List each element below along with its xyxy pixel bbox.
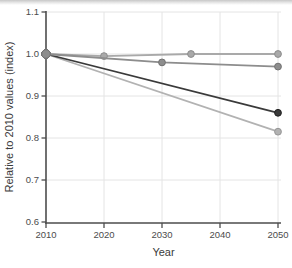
- data-point-marker: [275, 51, 282, 58]
- y-tick-label: 0.6: [26, 216, 39, 227]
- y-tick-label: 1.0: [26, 48, 39, 59]
- x-tick-label: 2040: [209, 229, 230, 240]
- x-tick-label: 2050: [267, 229, 288, 240]
- data-point-marker: [275, 109, 282, 116]
- data-point-marker: [188, 51, 195, 58]
- axes: 0.60.70.80.91.01.120102020203020402050: [26, 6, 289, 240]
- y-tick-label: 0.9: [26, 90, 39, 101]
- x-tick-label: 2030: [151, 229, 172, 240]
- chart-screenshot: 0.60.70.80.91.01.120102020203020402050Ye…: [0, 0, 292, 268]
- line-chart: 0.60.70.80.91.01.120102020203020402050Ye…: [0, 0, 292, 268]
- data-point-marker: [159, 59, 166, 66]
- y-tick-label: 0.8: [26, 132, 39, 143]
- y-tick-label: 1.1: [26, 6, 39, 17]
- data-point-marker: [275, 128, 282, 135]
- gridlines: [46, 12, 281, 223]
- x-tick-label: 2010: [35, 229, 56, 240]
- x-axis-title: Year: [152, 246, 175, 258]
- y-axis-title: Relative to 2010 values (index): [3, 41, 15, 192]
- data-point-marker: [275, 63, 282, 70]
- x-tick-label: 2020: [93, 229, 114, 240]
- y-tick-label: 0.7: [26, 174, 39, 185]
- data-point-marker: [42, 50, 51, 59]
